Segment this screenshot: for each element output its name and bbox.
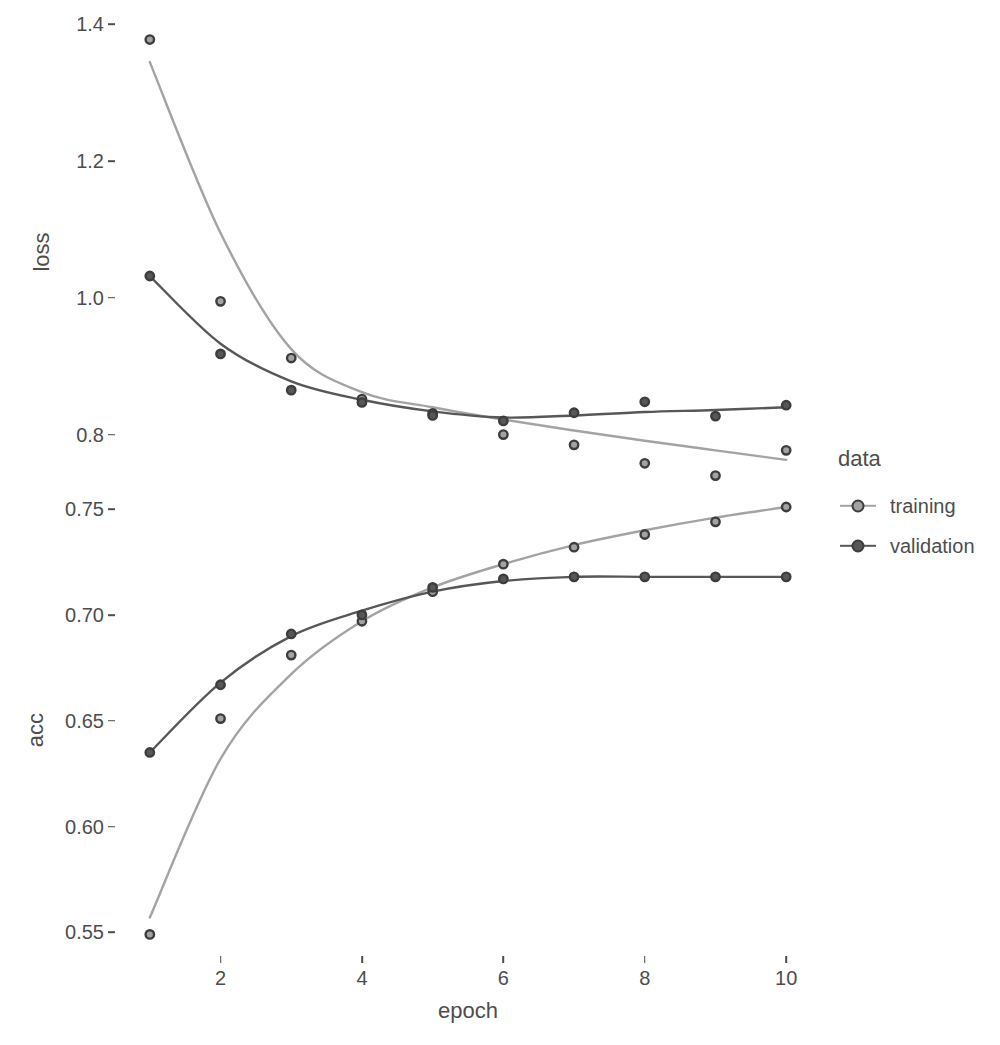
- data-point: [146, 748, 154, 756]
- x-tick-mark: [503, 956, 505, 963]
- series-line-training: [150, 62, 786, 460]
- data-point: [358, 611, 366, 619]
- y-tick-label: 1.0: [76, 288, 104, 308]
- data-point: [570, 573, 578, 581]
- y-tick-mark: [108, 297, 115, 299]
- data-point: [570, 441, 578, 449]
- x-tick-label: 2: [215, 968, 226, 988]
- data-point: [570, 409, 578, 417]
- panel-acc: [118, 496, 818, 956]
- legend-item-training[interactable]: training: [838, 488, 998, 524]
- x-axis-ticks: 246810: [118, 956, 818, 1000]
- y-tick-mark: [108, 508, 115, 510]
- legend-item-label: training: [890, 496, 956, 516]
- data-point: [287, 651, 295, 659]
- legend-item-label: validation: [890, 536, 975, 556]
- data-point: [146, 272, 154, 280]
- data-point: [641, 573, 649, 581]
- data-point: [570, 543, 578, 551]
- y-tick-mark: [108, 932, 115, 934]
- x-tick-mark: [644, 956, 646, 963]
- series-line-validation: [150, 577, 786, 753]
- y-tick-label: 0.65: [65, 711, 104, 731]
- data-point: [711, 471, 719, 479]
- data-point: [711, 518, 719, 526]
- legend-key-icon: [838, 529, 878, 563]
- data-point: [499, 575, 507, 583]
- data-point: [216, 681, 224, 689]
- plot-area-acc: [118, 496, 818, 956]
- data-point: [358, 398, 366, 406]
- legend-item-validation[interactable]: validation: [838, 528, 998, 564]
- legend-title: data: [838, 448, 998, 470]
- data-point: [711, 412, 719, 420]
- y-tick-label: 1.2: [76, 151, 104, 171]
- series-line-validation: [150, 276, 786, 418]
- y-tick-label: 0.8: [76, 425, 104, 445]
- x-tick-mark: [361, 956, 363, 963]
- data-point: [499, 560, 507, 568]
- data-point: [287, 386, 295, 394]
- data-point: [641, 459, 649, 467]
- data-point: [782, 573, 790, 581]
- series-line-training: [150, 507, 786, 917]
- y-axis-ticks-acc: 0.750.700.650.600.55: [0, 496, 104, 956]
- data-point: [782, 401, 790, 409]
- legend-key-dot: [852, 540, 865, 553]
- x-tick-label: 8: [639, 968, 650, 988]
- x-tick-label: 4: [356, 968, 367, 988]
- x-tick-mark: [785, 956, 787, 963]
- data-point: [499, 417, 507, 425]
- plot-area-loss: [118, 18, 818, 478]
- data-point: [216, 350, 224, 358]
- panel-loss: [118, 18, 818, 478]
- data-point: [641, 398, 649, 406]
- y-tick-mark: [108, 160, 115, 162]
- y-tick-label: 0.55: [65, 922, 104, 942]
- y-tick-mark: [108, 826, 115, 828]
- legend-key-dot: [852, 500, 865, 513]
- data-point: [216, 714, 224, 722]
- legend: data trainingvalidation: [838, 448, 998, 568]
- y-tick-mark: [108, 614, 115, 616]
- data-point: [428, 583, 436, 591]
- y-tick-label: 0.75: [65, 499, 104, 519]
- x-axis-title: epoch: [118, 1000, 818, 1022]
- y-tick-label: 0.60: [65, 817, 104, 837]
- data-point: [428, 411, 436, 419]
- data-point: [287, 354, 295, 362]
- y-axis-title-loss: loss: [31, 192, 53, 312]
- x-tick-mark: [220, 956, 222, 963]
- data-point: [146, 930, 154, 938]
- data-point: [146, 35, 154, 43]
- plot-figure: 1.41.21.00.8 0.750.700.650.600.55 loss a…: [0, 0, 1000, 1045]
- data-point: [782, 446, 790, 454]
- y-tick-label: 1.4: [76, 14, 104, 34]
- data-point: [499, 430, 507, 438]
- y-tick-mark: [108, 720, 115, 722]
- y-axis-title-acc: acc: [25, 670, 47, 790]
- legend-items: trainingvalidation: [838, 488, 998, 564]
- data-point: [782, 503, 790, 511]
- y-tick-mark: [108, 24, 115, 26]
- legend-key-icon: [838, 489, 878, 523]
- data-point: [711, 573, 719, 581]
- y-tick-mark: [108, 434, 115, 436]
- data-point: [641, 530, 649, 538]
- data-point: [216, 297, 224, 305]
- y-tick-label: 0.70: [65, 605, 104, 625]
- x-tick-label: 6: [498, 968, 509, 988]
- x-tick-label: 10: [775, 968, 797, 988]
- data-point: [287, 630, 295, 638]
